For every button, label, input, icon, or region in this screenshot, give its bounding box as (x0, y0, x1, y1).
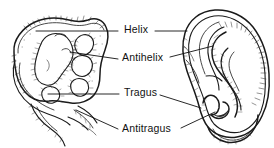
ear-anatomy-figure: Helix Antihelix Tragus Antitragus (0, 0, 274, 148)
adult-ear-drawing (183, 10, 269, 144)
label-antitragus: Antitragus (122, 123, 171, 134)
label-antihelix: Antihelix (122, 52, 163, 63)
leader-antihelix-left (70, 52, 118, 59)
label-helix: Helix (124, 24, 148, 35)
leader-antitragus-right (181, 112, 215, 128)
embryo-hillock-shading (39, 33, 97, 102)
label-tragus: Tragus (124, 87, 157, 98)
leader-tragus-right (160, 95, 201, 108)
embryonic-ear-drawing (12, 16, 108, 146)
ear-scapha-hatching (219, 22, 266, 105)
